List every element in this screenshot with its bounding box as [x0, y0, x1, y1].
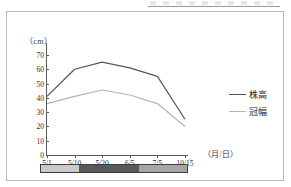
legend-swatch: [229, 94, 246, 95]
legend-swatch: [229, 111, 246, 112]
series-line-crown-width: [47, 90, 185, 126]
legend-item: 冠幅: [229, 103, 267, 120]
plot-area: （cm） （月/日） 010203040506070 5/15/105/206/…: [7, 12, 285, 182]
legend-label: 株高: [249, 88, 267, 101]
legend-label: 冠幅: [249, 105, 267, 118]
chart-frame: （cm） （月/日） 010203040506070 5/15/105/206/…: [6, 11, 284, 181]
segment-early: [41, 165, 79, 172]
segment-late: [139, 165, 187, 172]
legend-item: 株高: [229, 86, 267, 103]
chart-page: （cm） （月/日） 010203040506070 5/15/105/206/…: [0, 0, 291, 187]
header-rule: [148, 6, 280, 7]
chart-legend: 株高冠幅: [229, 86, 267, 120]
growth-stage-bar: [40, 164, 188, 173]
series-line-plant-height: [47, 62, 185, 119]
segment-peak: [79, 165, 139, 172]
cropped-header-remnant: [150, 1, 278, 5]
